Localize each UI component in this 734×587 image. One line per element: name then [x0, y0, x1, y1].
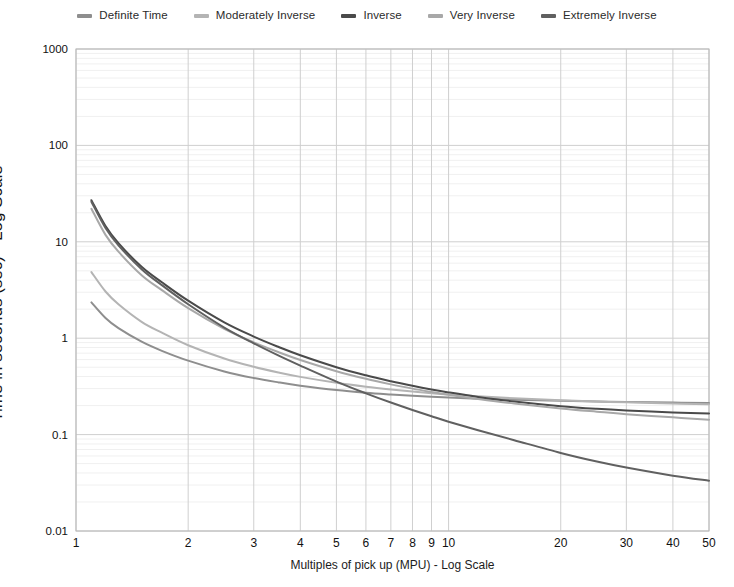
x-tick-label: 1: [73, 536, 80, 550]
y-tick-label: 1: [62, 332, 68, 344]
chart-container: Definite Time Moderately Inverse Inverse…: [0, 0, 734, 587]
x-axis-ticks: 1234567891020304050: [73, 536, 716, 550]
x-tick-label: 9: [428, 536, 435, 550]
y-axis-title-text: Time in seconds (sec) - Log Scale: [0, 165, 7, 421]
x-tick-label: 30: [620, 536, 634, 550]
x-tick-label: 50: [702, 536, 716, 550]
x-tick-label: 4: [297, 536, 304, 550]
y-tick-label: 0.1: [52, 429, 68, 441]
x-tick-label: 2: [185, 536, 192, 550]
x-tick-label: 6: [363, 536, 370, 550]
x-tick-label: 3: [250, 536, 257, 550]
x-tick-label: 8: [409, 536, 416, 550]
x-axis-title: Multiples of pick up (MPU) - Log Scale: [76, 558, 709, 572]
y-tick-label: 10: [55, 236, 68, 248]
y-tick-label: 1000: [42, 43, 68, 55]
x-tick-label: 10: [442, 536, 456, 550]
series-line-inverse: [91, 200, 709, 413]
x-tick-label: 5: [333, 536, 340, 550]
plot-area: 0.010.11101001000 1234567891020304050: [0, 0, 734, 587]
y-tick-label: 100: [49, 139, 68, 151]
y-axis-title: Time in seconds (sec) - Log Scale: [0, 0, 30, 587]
x-tick-label: 7: [388, 536, 395, 550]
series-line-very-inverse: [91, 209, 709, 420]
y-axis-ticks: 0.010.11101001000: [42, 43, 68, 537]
x-tick-label: 40: [666, 536, 680, 550]
x-tick-label: 20: [554, 536, 568, 550]
y-tick-label: 0.01: [46, 525, 68, 537]
